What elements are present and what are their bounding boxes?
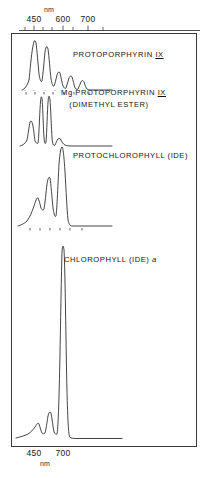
spectrum-label-mg-protoporphyrin-ix-roman: IX	[158, 88, 166, 97]
top-axis-tick-700: 700	[80, 14, 95, 24]
bottom-axis-tick-700: 700	[55, 448, 70, 458]
spectrum-label-mg-protoporphyrin-ix: Mg PROTOPORPHYRIN IX	[61, 88, 166, 97]
absorption-spectra-figure: nm 450 600 700	[0, 0, 208, 478]
spectrum-label-mg-protoporphyrin-ix-text: Mg PROTOPORPHYRIN	[61, 88, 158, 97]
spectrum-label-protochlorophyllide: PROTOCHLOROPHYLL (IDE)	[73, 151, 188, 160]
top-axis-tick-450: 450	[26, 14, 41, 24]
plot-frame: PROTOPORPHYRIN IX Mg PROTOPORPHYRIN IX (…	[11, 33, 197, 447]
spectrum-label-chlorophyllide-a: CHLOROPHYLL (IDE) a	[64, 255, 157, 264]
spectrum-label-protoporphyrin-ix-text: PROTOPORPHYRIN	[73, 50, 155, 59]
spectrum-label-protoporphyrin-ix-roman: IX	[155, 50, 163, 59]
spectrum-label-chlorophyllide-a-italic: a	[152, 255, 157, 264]
bottom-axis-unit-label: nm	[40, 460, 50, 467]
top-axis-unit-label: nm	[44, 6, 54, 13]
top-axis: nm 450 600 700	[0, 6, 208, 34]
bottom-axis-tick-450: 450	[26, 448, 41, 458]
spectrum-trace-chlorophyllide-a	[12, 244, 198, 444]
spectrum-label-dimethyl-ester: (DIMETHYL ESTER)	[69, 100, 148, 109]
spectrum-label-chlorophyllide-a-text: CHLOROPHYLL (IDE)	[64, 255, 152, 264]
top-axis-tick-600: 600	[55, 14, 70, 24]
bottom-axis: 450 700 nm	[0, 448, 208, 476]
spectrum-label-protoporphyrin-ix: PROTOPORPHYRIN IX	[73, 50, 164, 59]
spectrum-trace-protoporphyrin-ix	[12, 34, 198, 96]
